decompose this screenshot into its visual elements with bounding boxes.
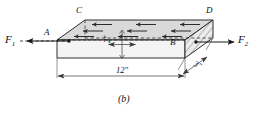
- corner-label-d: D: [206, 6, 213, 15]
- figure-caption: (b): [118, 94, 130, 104]
- force-label-f1: F1: [5, 34, 15, 48]
- block-solid: [57, 20, 213, 58]
- dimension-label-length: 12": [116, 66, 128, 75]
- front-face: [57, 40, 185, 58]
- force-label-f2: F2: [238, 34, 248, 48]
- figure-container: F1 F2 A B C D 12" 2" 3" (b): [0, 0, 258, 115]
- corner-label-b: B: [170, 38, 176, 47]
- dimension-label-thickness: 2": [104, 36, 112, 43]
- corner-label-a: A: [44, 28, 50, 37]
- corner-label-c: C: [76, 6, 82, 15]
